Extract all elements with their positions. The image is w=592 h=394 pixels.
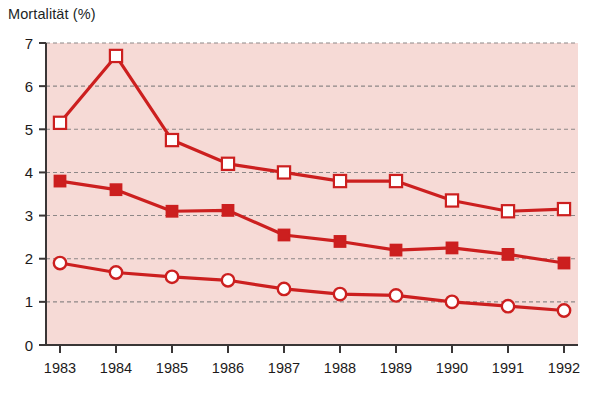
datapoint-filled-square-series-1991 [502,249,513,260]
datapoint-open-circle-series-1986 [222,274,234,286]
x-axis-ticks-group [60,345,564,353]
plot-area: 01234567 1983198419851986198719881989199… [0,0,592,394]
y-axis-ticks-group [39,43,46,345]
y-axis-label-0: 0 [25,337,33,354]
y-axis-label-2: 2 [25,250,33,267]
chart-figure: Mortalität (%) 01234567 1983198419851986… [0,0,592,394]
datapoint-open-square-series-1983 [54,117,66,129]
x-axis-label-1985: 1985 [156,360,188,376]
datapoint-open-square-series-1987 [278,166,290,178]
x-axis-label-1989: 1989 [380,360,412,376]
datapoint-filled-square-series-1988 [334,236,345,247]
datapoint-open-square-series-1984 [110,50,122,62]
datapoint-open-square-series-1989 [390,175,402,187]
x-axis-labels-group: 1983198419851986198719881989199019911992 [44,360,580,376]
datapoint-open-square-series-1992 [558,203,570,215]
x-axis-label-1983: 1983 [44,360,76,376]
datapoint-open-square-series-1990 [446,194,458,206]
y-axis-label-6: 6 [25,78,33,95]
datapoint-open-circle-series-1991 [502,300,514,312]
x-axis-label-1992: 1992 [548,360,580,376]
y-axis-labels-group: 01234567 [25,35,33,354]
line-chart-svg: 01234567 1983198419851986198719881989199… [0,0,592,394]
x-axis-label-1991: 1991 [492,360,524,376]
datapoint-open-circle-series-1988 [334,288,346,300]
y-axis-label-1: 1 [25,293,33,310]
datapoint-filled-square-series-1989 [390,244,401,255]
datapoint-filled-square-series-1983 [54,175,65,186]
y-axis-label-5: 5 [25,121,33,138]
y-axis-label-4: 4 [25,164,33,181]
datapoint-open-circle-series-1983 [54,257,66,269]
y-axis-label-7: 7 [25,35,33,52]
x-axis-label-1990: 1990 [436,360,468,376]
datapoint-filled-square-series-1986 [222,205,233,216]
datapoint-open-square-series-1991 [502,205,514,217]
datapoint-open-circle-series-1984 [110,266,122,278]
datapoint-open-square-series-1988 [334,175,346,187]
x-axis-label-1984: 1984 [100,360,132,376]
datapoint-filled-square-series-1985 [166,206,177,217]
y-axis-label-3: 3 [25,207,33,224]
x-axis-label-1987: 1987 [268,360,300,376]
x-axis-label-1986: 1986 [212,360,244,376]
datapoint-open-circle-series-1992 [558,304,570,316]
datapoint-filled-square-series-1990 [446,242,457,253]
datapoint-filled-square-series-1987 [278,229,289,240]
datapoint-filled-square-series-1992 [558,257,569,268]
datapoint-open-circle-series-1987 [278,283,290,295]
datapoint-open-circle-series-1989 [390,289,402,301]
datapoint-open-circle-series-1990 [446,296,458,308]
datapoint-open-square-series-1985 [166,134,178,146]
datapoint-open-circle-series-1985 [166,271,178,283]
datapoint-filled-square-series-1984 [110,184,121,195]
x-axis-label-1988: 1988 [324,360,356,376]
datapoint-open-square-series-1986 [222,158,234,170]
